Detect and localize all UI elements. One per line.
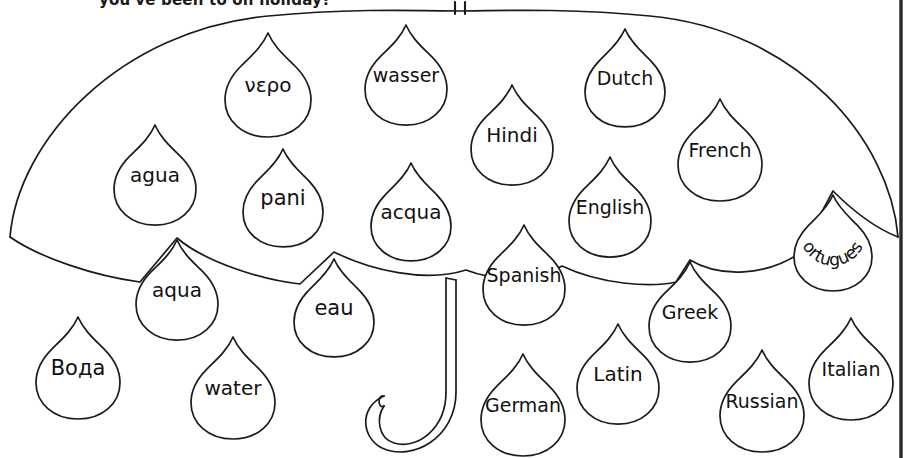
raindrop: agua xyxy=(114,125,196,225)
raindrop-label: German xyxy=(485,394,561,416)
raindrop: pani xyxy=(243,149,323,247)
worksheet-page: you've been to on holiday? xyxy=(0,0,909,458)
umbrella-shaft xyxy=(446,278,456,392)
raindrop: water xyxy=(191,337,275,439)
raindrop-label: νερο xyxy=(245,73,292,97)
umbrella-ferrule-tip xyxy=(455,2,465,14)
raindrop-label: Spanish xyxy=(487,264,562,286)
raindrop-label: Dutch xyxy=(597,67,653,90)
raindrop: French xyxy=(678,99,762,201)
umbrella-j-handle xyxy=(366,392,456,452)
raindrop-label: agua xyxy=(130,163,180,187)
raindrop-label: pani xyxy=(260,185,305,210)
raindrop-label: water xyxy=(204,376,262,400)
raindrop-label: Вода xyxy=(51,355,106,380)
raindrop-label: Russian xyxy=(726,390,799,412)
raindrop-label: French xyxy=(689,139,752,161)
raindrop-label: wasser xyxy=(373,64,439,86)
raindrop: Russian xyxy=(720,350,804,452)
raindrop-label: Latin xyxy=(593,362,642,386)
raindrop-label: Italian xyxy=(822,358,881,380)
worksheet-prompt-text: you've been to on holiday? xyxy=(0,0,430,11)
raindrop: Portuguese xyxy=(794,195,872,291)
raindrop: wasser xyxy=(365,25,447,125)
raindrop: Dutch xyxy=(585,29,665,127)
raindrop: Вода xyxy=(36,317,120,419)
raindrop: Italian xyxy=(809,318,893,420)
raindrop: acqua xyxy=(371,163,451,261)
umbrella-illustration: νεροwasserDutchHindiFrenchaguapaniacquaE… xyxy=(0,0,909,458)
raindrop: eau xyxy=(294,259,374,357)
raindrop-label: aqua xyxy=(152,278,202,302)
raindrop: Spanish xyxy=(483,225,565,325)
raindrop-label: eau xyxy=(314,295,353,320)
raindrop: Greek xyxy=(649,262,731,362)
raindrop: Latin xyxy=(577,324,659,424)
raindrops-group: νεροwasserDutchHindiFrenchaguapaniacquaE… xyxy=(36,25,893,456)
raindrop: Hindi xyxy=(471,85,553,185)
raindrop-label: Hindi xyxy=(486,123,538,147)
raindrop: νερο xyxy=(225,33,311,137)
raindrop-label: acqua xyxy=(381,200,442,224)
raindrop: German xyxy=(481,354,565,456)
raindrop: aqua xyxy=(136,240,218,340)
raindrop-label: English xyxy=(576,196,644,218)
raindrop-outline xyxy=(794,195,872,291)
raindrop: English xyxy=(569,157,651,257)
raindrop-label: Greek xyxy=(662,301,718,323)
